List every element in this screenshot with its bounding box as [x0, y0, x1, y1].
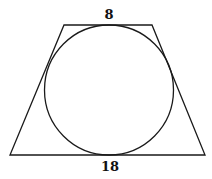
inscribed-circle [45, 25, 174, 155]
top-base-label: 8 [104, 7, 113, 22]
trapezoid [10, 25, 205, 155]
bottom-base-label: 18 [101, 159, 119, 174]
diagram-canvas: 8 18 [0, 0, 212, 179]
